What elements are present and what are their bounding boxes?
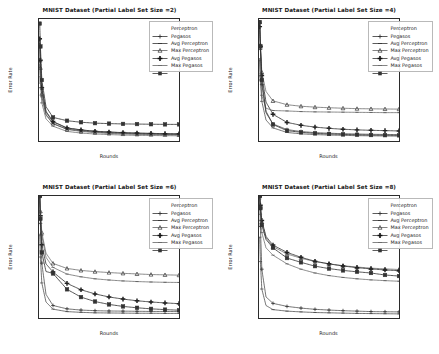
legend-label: Pegasos <box>171 210 191 216</box>
y-tick-mark <box>258 96 259 97</box>
legend-item: Max Pegasos <box>152 61 209 68</box>
y-axis-label: Error Rate <box>7 244 13 269</box>
y-tick-mark <box>38 50 39 51</box>
legend-item: Max Pegasos <box>372 238 429 245</box>
x-tick-mark <box>258 141 259 142</box>
y-tick-mark <box>258 127 259 128</box>
y-tick-mark <box>38 196 39 197</box>
x-tick-mark <box>39 318 40 319</box>
legend-label: Max Perceptron <box>390 224 428 230</box>
x-tick-mark <box>67 141 68 142</box>
legend-label: Pegasos <box>171 33 191 39</box>
legend-item: Max Pegasos <box>152 238 209 245</box>
legend-item: Perceptron <box>372 25 429 32</box>
legend-label: Max Perceptron <box>171 224 209 230</box>
legend-label: Max Perceptron <box>171 47 209 53</box>
legend-label: Max Perceptron <box>390 47 428 53</box>
x-tick-mark <box>258 318 259 319</box>
y-tick-mark <box>258 65 259 66</box>
legend-label: Max Pegasos <box>390 62 422 68</box>
bold-plus-icon <box>152 47 168 54</box>
x-tick-mark <box>67 318 68 319</box>
legend-label: Perceptron <box>171 202 197 208</box>
legend-item: Avg Pegasos <box>372 54 429 61</box>
square-icon <box>372 239 388 246</box>
legend-item: Pegasos <box>372 209 429 216</box>
legend-label: Pegasos <box>390 210 410 216</box>
figure-canvas: MNIST Dataset (Partial Label Set Size =2… <box>0 0 439 354</box>
legend-label: Perceptron <box>390 25 416 31</box>
triangle-icon <box>372 39 388 46</box>
y-tick-mark <box>258 227 259 228</box>
x-tick-mark <box>315 141 316 142</box>
legend: Perceptron Pegasos Avg Perceptron Max Pe… <box>368 198 432 249</box>
panel-title: MNIST Dataset (Partial Label Set Size =6… <box>0 184 219 190</box>
legend-item: Avg Perceptron <box>152 216 209 223</box>
legend-label: Avg Pegasos <box>171 55 202 61</box>
panel-size-8: MNIST Dataset (Partial Label Set Size =8… <box>220 177 439 354</box>
y-tick-mark <box>258 34 259 35</box>
legend-label: Pegasos <box>390 33 410 39</box>
line-icon <box>372 209 388 216</box>
thin-line-icon <box>152 231 168 238</box>
panel-title: MNIST Dataset (Partial Label Set Size =2… <box>0 7 219 13</box>
y-tick-mark <box>38 273 39 274</box>
x-axis-label: Rounds <box>38 153 180 159</box>
legend-item: Avg Perceptron <box>152 39 209 46</box>
legend-item: Pegasos <box>152 32 209 39</box>
y-tick-mark <box>258 196 259 197</box>
legend-item: Avg Pegasos <box>152 54 209 61</box>
x-tick-mark <box>39 141 40 142</box>
legend-item: Max Perceptron <box>372 47 429 54</box>
legend-label: Perceptron <box>171 25 197 31</box>
legend-item: Avg Pegasos <box>152 231 209 238</box>
legend-label: Avg Perceptron <box>390 217 427 223</box>
y-tick-mark <box>38 112 39 113</box>
legend-label: Avg Perceptron <box>171 40 208 46</box>
plus-icon <box>152 25 168 32</box>
legend-item: Perceptron <box>152 202 209 209</box>
panel-title: MNIST Dataset (Partial Label Set Size =4… <box>220 7 439 13</box>
legend-label: Max Pegasos <box>171 62 203 68</box>
y-tick-mark <box>38 96 39 97</box>
legend-item: Avg Pegasos <box>372 231 429 238</box>
legend-item: Perceptron <box>152 25 209 32</box>
legend-item: Avg Perceptron <box>372 216 429 223</box>
line-icon <box>372 32 388 39</box>
y-tick-mark <box>258 304 259 305</box>
y-axis-label: Error Rate <box>227 244 233 269</box>
x-tick-mark <box>152 318 153 319</box>
legend-item: Pegasos <box>152 209 209 216</box>
y-tick-mark <box>38 34 39 35</box>
plus-icon <box>372 25 388 32</box>
x-tick-mark <box>315 318 316 319</box>
triangle-icon <box>372 216 388 223</box>
legend-item: Max Perceptron <box>152 47 209 54</box>
y-tick-mark <box>38 258 39 259</box>
legend-item: Max Perceptron <box>152 224 209 231</box>
legend-label: Perceptron <box>390 202 416 208</box>
legend-label: Avg Pegasos <box>390 232 421 238</box>
y-tick-mark <box>38 65 39 66</box>
legend-item: Avg Perceptron <box>372 39 429 46</box>
bold-plus-icon <box>372 224 388 231</box>
x-tick-mark <box>152 141 153 142</box>
x-tick-mark <box>287 141 288 142</box>
legend-label: Avg Perceptron <box>390 40 427 46</box>
x-tick-mark <box>343 318 344 319</box>
thin-line-icon <box>372 54 388 61</box>
line-icon <box>152 32 168 39</box>
square-icon <box>152 62 168 69</box>
panel-size-4: MNIST Dataset (Partial Label Set Size =4… <box>220 0 439 177</box>
square-icon <box>152 239 168 246</box>
y-tick-mark <box>258 112 259 113</box>
y-tick-mark <box>258 211 259 212</box>
y-tick-mark <box>258 242 259 243</box>
x-tick-mark <box>372 318 373 319</box>
x-tick-mark <box>287 318 288 319</box>
legend-item: Perceptron <box>372 202 429 209</box>
y-tick-mark <box>38 289 39 290</box>
y-tick-mark <box>38 227 39 228</box>
plus-icon <box>372 202 388 209</box>
x-axis-label: Rounds <box>38 330 180 336</box>
